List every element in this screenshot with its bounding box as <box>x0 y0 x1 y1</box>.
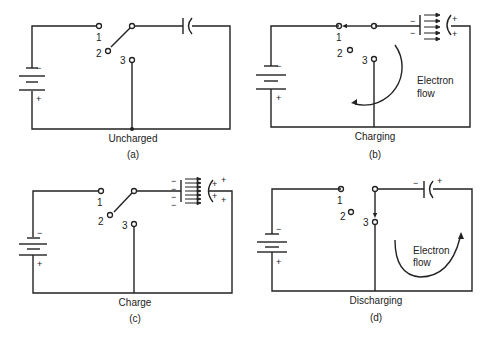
panel-label: (c) <box>129 313 141 324</box>
switch-pole <box>130 24 135 29</box>
state-label: Charging <box>355 131 396 142</box>
panel-d: − + − + 1 2 3 Electron flow Discharging … <box>257 176 472 323</box>
panel-label: (a) <box>127 149 139 160</box>
terminal-3 <box>130 58 135 63</box>
terminal-2-label: 2 <box>340 211 346 222</box>
capacitor-icon <box>183 18 192 34</box>
terminal-3-label: 3 <box>363 217 369 228</box>
electron-flow-arrow <box>355 45 402 105</box>
flow-label: Electron <box>413 245 450 256</box>
terminal-3 <box>373 220 378 225</box>
terminal-3-label: 3 <box>122 220 128 231</box>
battery-neg-sign: − <box>36 63 41 73</box>
wire-top-left <box>271 26 339 66</box>
cap-neg-sign: − <box>413 178 418 188</box>
switch-arrow-icon <box>342 24 347 28</box>
panel-label: (b) <box>369 149 381 160</box>
cap-neg-sign: − <box>410 28 415 38</box>
terminal-3-label: 3 <box>120 55 126 66</box>
cap-pos-sign: + <box>221 175 226 185</box>
terminal-1 <box>99 189 104 194</box>
terminal-1-label: 1 <box>97 197 103 208</box>
switch-arm <box>114 193 132 212</box>
cap-pos-sign: + <box>452 29 457 39</box>
battery-pos-sign: + <box>37 259 42 269</box>
battery-pos-sign: + <box>276 257 281 267</box>
battery-icon <box>257 234 287 252</box>
panel-a: − + 1 2 3 Uncharged (a) <box>19 18 230 160</box>
terminal-1-label: 1 <box>337 195 343 206</box>
cap-neg-sign: − <box>410 16 415 26</box>
cap-pos-sign: + <box>212 191 217 201</box>
charge-arrows-icon <box>185 177 201 204</box>
cap-pos-sign: + <box>452 14 457 24</box>
flow-arrowhead-icon <box>351 99 357 105</box>
flow-label: Electron <box>417 75 454 86</box>
wire-loop <box>32 26 230 129</box>
state-label: Charge <box>119 297 152 308</box>
state-label: Discharging <box>350 295 403 306</box>
cap-neg-sign: − <box>171 200 176 210</box>
switch-pole <box>132 189 137 194</box>
state-label: Uncharged <box>109 133 158 144</box>
terminal-1-label: 1 <box>96 32 102 43</box>
battery-icon <box>256 66 286 89</box>
terminal-1 <box>97 24 102 29</box>
terminal-2 <box>106 49 111 54</box>
switch-arm <box>111 28 130 47</box>
charge-arrows-icon <box>424 13 440 41</box>
flow-label: flow <box>417 88 436 99</box>
wire-loop <box>33 191 232 293</box>
capacitor-icon <box>424 181 433 198</box>
switch-arrow-icon <box>373 213 377 218</box>
cap-pos-sign: + <box>212 179 217 189</box>
panel-label: (d) <box>370 312 382 323</box>
terminal-3 <box>372 57 377 62</box>
terminal-3 <box>132 222 137 227</box>
battery-icon <box>19 238 47 255</box>
cap-pos-sign: + <box>221 195 226 205</box>
terminal-2-label: 2 <box>337 48 343 59</box>
switch-pole <box>373 187 378 192</box>
panel-b: − + − − + + 1 2 3 Electron flow Charging <box>256 13 470 160</box>
terminal-1-label: 1 <box>336 32 342 43</box>
battery-neg-sign: − <box>276 61 281 71</box>
wire-top-left <box>272 189 341 234</box>
flow-arrowhead-icon <box>458 232 464 239</box>
cap-pos-sign: + <box>437 176 442 186</box>
battery-pos-sign: + <box>36 94 41 104</box>
wire-top-left <box>33 191 98 237</box>
terminal-2-label: 2 <box>98 216 104 227</box>
wire-top-left <box>32 26 97 68</box>
capacitor-charge-discharge-diagram: − + 1 2 3 Uncharged (a) − <box>0 0 484 337</box>
terminal-2 <box>108 213 113 218</box>
battery-pos-sign: + <box>276 93 281 103</box>
wire-loop <box>272 189 472 291</box>
panel-c: − + − − − − + + + + 1 2 3 Charge (c) <box>19 175 232 324</box>
terminal-2 <box>349 210 354 215</box>
terminal-2 <box>348 48 353 53</box>
terminal-3-label: 3 <box>362 55 368 66</box>
flow-label: flow <box>413 257 432 268</box>
junction-dot <box>130 127 134 131</box>
terminal-2-label: 2 <box>96 48 102 59</box>
battery-neg-sign: − <box>276 224 281 234</box>
battery-neg-sign: − <box>37 228 42 238</box>
